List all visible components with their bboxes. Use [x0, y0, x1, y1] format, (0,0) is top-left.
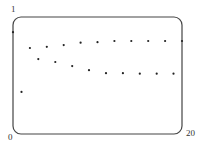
plot-frame [13, 17, 182, 134]
data-point [80, 42, 82, 44]
data-point [122, 72, 124, 74]
data-point [88, 69, 90, 71]
data-point [172, 73, 174, 75]
data-point [29, 47, 31, 49]
data-point [164, 40, 166, 42]
x-min-label: 0 [8, 133, 13, 142]
data-point [105, 72, 107, 74]
x-max-label: 20 [186, 129, 195, 138]
data-point [130, 40, 132, 42]
data-point [139, 73, 141, 75]
data-point [20, 91, 22, 93]
scatter-plot [0, 0, 201, 150]
data-point [12, 31, 14, 33]
data-points [12, 31, 183, 93]
data-point [147, 40, 149, 42]
data-point [96, 41, 98, 43]
data-point [37, 58, 39, 60]
data-point [181, 40, 183, 42]
data-point [63, 44, 65, 46]
data-point [54, 61, 56, 63]
data-point [113, 40, 115, 42]
data-point [46, 46, 48, 48]
data-point [71, 65, 73, 67]
y-max-label: 1 [11, 5, 16, 14]
data-point [156, 73, 158, 75]
